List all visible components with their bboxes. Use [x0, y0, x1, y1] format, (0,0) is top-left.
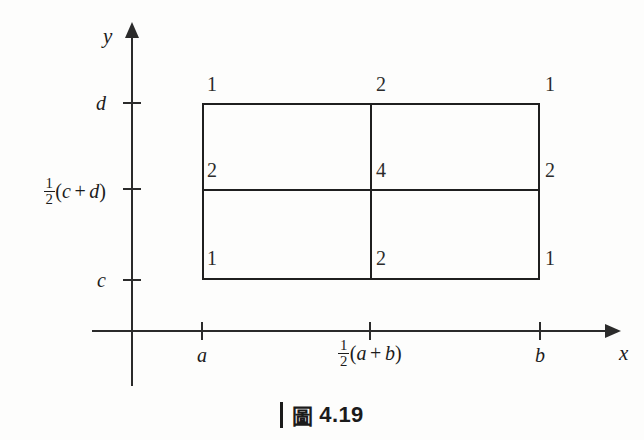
x-tick-label-mid: 1 2 (a+b) — [300, 338, 440, 369]
y-axis-arrow-icon — [125, 22, 139, 38]
caption-figure-number: 4.19 — [319, 402, 363, 428]
y-tick-mid — [123, 188, 141, 190]
y-tick-c — [123, 279, 141, 281]
caption-rule-bar — [280, 402, 283, 428]
x-tick-label-b: b — [510, 345, 570, 365]
y-mid-d: d — [89, 180, 99, 202]
x-tick-a — [201, 322, 203, 340]
weight-top-left: 1 — [207, 74, 217, 94]
figure-4-19: y x d 1 2 (c+d) c a 1 2 (a+b) b 1 2 1 — [0, 0, 644, 440]
weight-bottom-left: 1 — [207, 248, 217, 268]
weight-mid-left: 2 — [207, 160, 217, 180]
weight-top-right: 1 — [545, 74, 555, 94]
y-mid-plus: + — [71, 180, 89, 202]
x-mid-fraction-numerator: 1 — [338, 338, 349, 353]
weight-mid-right: 2 — [545, 160, 555, 180]
y-mid-fraction: 1 2 — [44, 176, 55, 207]
x-tick-b — [539, 322, 541, 340]
grid-vertical-midline — [370, 103, 372, 280]
y-tick-label-c-text: c — [97, 269, 106, 291]
y-tick-label-d-text: d — [96, 92, 106, 114]
weight-mid-center: 4 — [376, 160, 386, 180]
y-mid-paren-open: ( — [55, 180, 62, 202]
x-tick-label-b-text: b — [535, 344, 545, 366]
caption-cjk-character: 圖 — [292, 400, 313, 430]
y-tick-label-d: d — [60, 93, 106, 113]
y-mid-fraction-denominator: 2 — [44, 191, 55, 207]
y-mid-paren-close: ) — [99, 180, 106, 202]
x-mid-paren-open: ( — [350, 342, 357, 364]
y-mid-c: c — [62, 180, 71, 202]
grid-horizontal-midline — [202, 189, 540, 191]
weight-bottom-mid: 2 — [376, 248, 386, 268]
x-mid-a: a — [357, 342, 367, 364]
x-mid-plus: + — [367, 342, 385, 364]
weight-bottom-right: 1 — [545, 248, 555, 268]
x-mid-paren-close: ) — [395, 342, 402, 364]
x-tick-label-a: a — [172, 345, 232, 365]
x-mid-fraction-denominator: 2 — [338, 353, 349, 369]
y-axis-line — [131, 34, 133, 386]
y-tick-d — [123, 102, 141, 104]
y-tick-label-c: c — [60, 270, 106, 290]
y-tick-label-mid: 1 2 (c+d) — [12, 176, 106, 207]
x-mid-fraction: 1 2 — [338, 338, 349, 369]
x-axis-line — [92, 330, 611, 332]
x-tick-label-a-text: a — [197, 344, 207, 366]
x-mid-b: b — [385, 342, 395, 364]
y-axis-label: y — [103, 26, 112, 47]
figure-caption: 圖4.19 — [0, 400, 644, 430]
weight-top-mid: 2 — [376, 74, 386, 94]
y-mid-fraction-numerator: 1 — [44, 176, 55, 191]
x-axis-label: x — [619, 343, 628, 364]
x-axis-arrow-icon — [605, 324, 621, 338]
